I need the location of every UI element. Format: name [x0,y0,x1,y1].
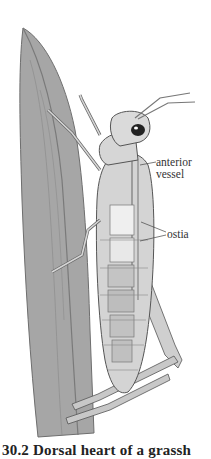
grasshopper-body [96,153,153,393]
grass-blade [20,28,94,437]
label-vessel-text: vessel [156,168,192,180]
label-anterior-text: anterior [156,156,192,168]
compound-eye [131,124,145,136]
label-ostia: ostia [167,228,189,240]
figure-caption: 30.2 Dorsal heart of a grassh [2,442,191,459]
grasshopper-head [99,93,195,165]
label-anterior-vessel: anterior vessel [156,156,192,180]
